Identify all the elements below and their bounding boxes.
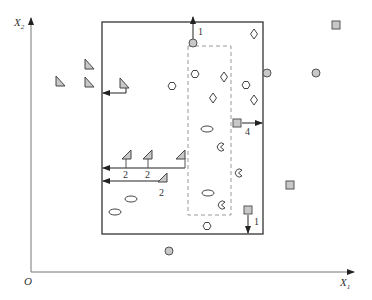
circle-icon [165, 247, 173, 255]
square-icon [244, 206, 252, 214]
pacman-icon [218, 201, 225, 209]
triangle-icon [176, 150, 185, 159]
x2-label: X2 [13, 16, 25, 31]
square-icon [233, 119, 241, 127]
ellipse-icon [202, 190, 214, 196]
row-arrow-label-2: 2 [145, 169, 150, 180]
row-triangles [122, 150, 185, 182]
pacmans [217, 143, 242, 209]
diamond-icon [210, 93, 217, 103]
circle-icon [263, 69, 271, 77]
outer-box [102, 22, 263, 234]
pacman-icon [217, 143, 224, 151]
bottom-arrow-label: 1 [254, 216, 259, 227]
hexagons [168, 71, 250, 230]
x1-label: X1 [339, 276, 350, 291]
hexagon-icon [191, 71, 199, 78]
hexagon-icon [242, 82, 250, 89]
triangle-icon [122, 150, 131, 159]
ellipse-icon [201, 126, 213, 132]
pacman-icon [235, 169, 242, 177]
diamond-icon [221, 72, 228, 82]
row-arrow-label-1: 2 [123, 169, 128, 180]
triangle-icon [143, 150, 152, 159]
circle-icon [312, 69, 320, 77]
square-icon [332, 21, 340, 29]
square-icon [286, 181, 294, 189]
top-arrow-label: 1 [198, 26, 203, 37]
hexagon-icon [168, 83, 176, 90]
hexagon-icon [203, 223, 211, 230]
ellipse-icon [109, 209, 121, 215]
gray-squares [233, 21, 340, 214]
diamonds [210, 29, 258, 105]
diagram-canvas: O X1 X2 1 4 1 2 2 2 [0, 0, 372, 300]
circle-icon [189, 39, 197, 47]
right-arrow-label: 4 [245, 126, 250, 137]
triangle-icon [158, 173, 167, 182]
triangle-icon [56, 76, 65, 86]
origin-label: O [24, 275, 32, 287]
triangle-icon [120, 78, 129, 88]
left-triangles [56, 59, 129, 88]
diamond-icon [251, 95, 258, 105]
triangle-icon [85, 77, 94, 87]
triangle-icon [85, 59, 94, 69]
ellipse-icon [125, 196, 137, 202]
diamond-icon [251, 29, 258, 39]
row-arrow-label-3: 2 [159, 187, 164, 198]
